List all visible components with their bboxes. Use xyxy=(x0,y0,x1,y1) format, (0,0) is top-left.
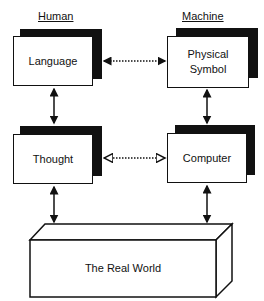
real-world-box xyxy=(30,224,232,297)
real-world-label: The Real World xyxy=(30,262,216,274)
diagram-connectors xyxy=(0,0,264,301)
